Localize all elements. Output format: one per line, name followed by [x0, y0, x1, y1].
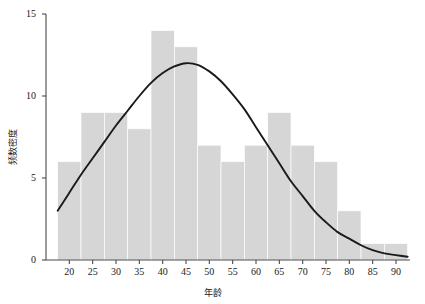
histogram-bar: [244, 145, 267, 260]
histogram-bar: [174, 47, 197, 260]
x-tick-label: 35: [126, 267, 152, 277]
x-tick-label: 75: [313, 267, 339, 277]
histogram-bar: [151, 30, 174, 260]
plot-area: [0, 0, 425, 304]
y-axis-title: 频数密度: [6, 102, 19, 192]
x-tick-label: 40: [150, 267, 176, 277]
x-tick-label: 85: [360, 267, 386, 277]
histogram-bar: [314, 162, 337, 260]
histogram-bar: [81, 112, 104, 260]
histogram-bar: [268, 112, 291, 260]
x-tick-label: 60: [243, 267, 269, 277]
x-tick-label: 70: [290, 267, 316, 277]
histogram-bar: [104, 112, 127, 260]
x-tick-label: 50: [196, 267, 222, 277]
histogram-bar: [58, 162, 81, 260]
x-tick-label: 65: [266, 267, 292, 277]
histogram-bar: [198, 145, 221, 260]
x-axis-ticks: [69, 260, 396, 264]
histogram-bar: [221, 162, 244, 260]
histogram-bar: [291, 145, 314, 260]
bars-layer: [58, 30, 408, 260]
x-tick-label: 45: [173, 267, 199, 277]
y-tick-label: 0: [10, 255, 36, 265]
x-tick-label: 20: [56, 267, 82, 277]
x-tick-label: 80: [336, 267, 362, 277]
histogram-chart: 051015 202530354045505560657075808590 频数…: [0, 0, 425, 304]
histogram-bar: [384, 244, 407, 260]
x-tick-label: 25: [80, 267, 106, 277]
y-tick-label: 15: [10, 9, 36, 19]
x-axis-title: 年龄: [0, 286, 425, 299]
histogram-bar: [338, 211, 361, 260]
y-axis-ticks: [42, 14, 46, 260]
x-tick-label: 30: [103, 267, 129, 277]
x-tick-label: 55: [220, 267, 246, 277]
x-tick-label: 90: [383, 267, 409, 277]
y-tick-label: 10: [10, 91, 36, 101]
histogram-bar: [128, 129, 151, 260]
